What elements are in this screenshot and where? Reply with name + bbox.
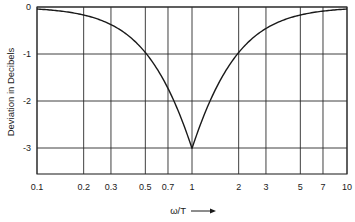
y-axis-title: Deviation in Decibels [5, 47, 16, 136]
x-axis-title-text: ω/T [170, 205, 186, 216]
x-tick-labels: 0.10.20.30.50.71235710 [31, 182, 352, 192]
y-tick-labels: 0-1-2-3 [23, 2, 31, 153]
deviation-chart: 0.10.20.30.50.71235710 0-1-2-3 Deviation… [0, 0, 355, 222]
x-tick-label: 3 [263, 182, 268, 192]
y-tick-label: 0 [26, 2, 31, 12]
right-arrow-icon [191, 209, 216, 214]
y-tick-label: -2 [23, 96, 31, 106]
x-tick-label: 7 [320, 182, 325, 192]
x-tick-label: 2 [236, 182, 241, 192]
x-tick-label: 0.5 [139, 182, 152, 192]
x-tick-label: 10 [342, 182, 352, 192]
x-tick-label: 0.7 [162, 182, 175, 192]
x-axis-title: ω/T [170, 205, 216, 216]
x-tick-label: 1 [189, 182, 194, 192]
x-tick-label: 5 [298, 182, 303, 192]
x-tick-label: 0.1 [31, 182, 44, 192]
x-tick-label: 0.3 [105, 182, 118, 192]
x-tick-label: 0.2 [77, 182, 90, 192]
y-tick-label: -3 [23, 143, 31, 153]
y-tick-label: -1 [23, 49, 31, 59]
grid-lines [37, 7, 347, 174]
